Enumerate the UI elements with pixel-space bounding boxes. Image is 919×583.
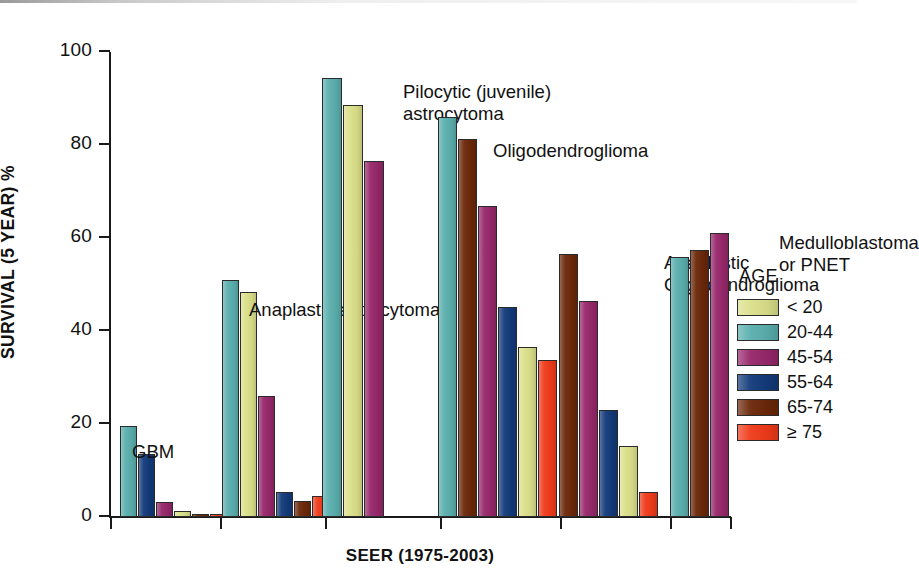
y-axis-tick-label: 20 (70, 411, 92, 433)
bar-group (559, 52, 659, 517)
x-axis-tick (220, 517, 222, 529)
legend-item[interactable]: 65-74 (737, 396, 849, 419)
x-axis-tick (110, 517, 112, 529)
x-axis-tick (325, 517, 327, 529)
y-axis-tick: 100 (99, 50, 110, 52)
bar[interactable] (294, 501, 311, 517)
x-axis-tick (440, 517, 442, 529)
bar-group (670, 52, 730, 517)
legend-rows: < 2020-4445-5455-6465-74≥ 75 (737, 296, 849, 444)
page-edge-rule (0, 0, 857, 3)
y-axis-tick-label: 0 (81, 504, 92, 526)
bar[interactable] (222, 280, 239, 517)
bar[interactable] (276, 492, 293, 517)
plot-area: 020406080100GBMAnaplastic astrocytomaPil… (110, 52, 730, 517)
y-axis-tick: 0 (99, 515, 110, 517)
legend-swatch (737, 374, 779, 391)
legend-item[interactable]: ≥ 75 (737, 421, 849, 444)
legend: AGE < 2020-4445-5455-6465-74≥ 75 (737, 266, 849, 446)
y-axis-tick-label: 80 (70, 132, 92, 154)
bar-group (322, 52, 385, 517)
y-axis-tick-label: 60 (70, 225, 92, 247)
y-axis-tick: 80 (99, 143, 110, 145)
bar[interactable] (619, 446, 638, 517)
bar[interactable] (240, 292, 257, 517)
legend-swatch (737, 399, 779, 416)
bar[interactable] (538, 360, 557, 517)
x-axis-tick (730, 517, 732, 529)
y-axis-tick-label: 100 (60, 39, 92, 61)
bar[interactable] (258, 396, 275, 517)
bar-group (222, 52, 330, 517)
bar[interactable] (438, 117, 457, 517)
bar[interactable] (174, 511, 191, 517)
legend-item[interactable]: 55-64 (737, 371, 849, 394)
legend-label: ≥ 75 (787, 422, 822, 443)
bar[interactable] (458, 139, 477, 517)
legend-item[interactable]: 45-54 (737, 346, 849, 369)
bar[interactable] (559, 254, 578, 517)
legend-title: AGE (739, 266, 849, 287)
group-label: GBM (132, 441, 174, 463)
bar[interactable] (192, 514, 209, 517)
y-axis-tick: 20 (99, 422, 110, 424)
bar[interactable] (120, 426, 137, 517)
legend-item[interactable]: < 20 (737, 296, 849, 319)
bar[interactable] (364, 161, 384, 517)
bar[interactable] (498, 307, 517, 517)
bar[interactable] (156, 502, 173, 517)
y-axis-tick: 40 (99, 329, 110, 331)
y-axis-tick: 60 (99, 236, 110, 238)
legend-label: 45-54 (787, 347, 833, 368)
bar[interactable] (639, 492, 658, 517)
legend-label: 65-74 (787, 397, 833, 418)
bar-group (438, 52, 558, 517)
legend-label: < 20 (787, 297, 823, 318)
legend-item[interactable]: 20-44 (737, 321, 849, 344)
bar[interactable] (343, 105, 363, 517)
legend-label: 55-64 (787, 372, 833, 393)
bar[interactable] (599, 410, 618, 517)
bar[interactable] (322, 78, 342, 517)
x-axis-label: SEER (1975-2003) (110, 546, 730, 566)
legend-swatch (737, 299, 779, 316)
y-axis-label: SURVIVAL (5 YEAR) % (0, 165, 19, 359)
bar[interactable] (690, 250, 709, 517)
bar[interactable] (478, 206, 497, 517)
bar[interactable] (670, 257, 689, 517)
legend-label: 20-44 (787, 322, 833, 343)
legend-swatch (737, 349, 779, 366)
bar[interactable] (518, 347, 537, 517)
legend-swatch (737, 424, 779, 441)
bar[interactable] (710, 233, 729, 517)
y-axis-tick-label: 40 (70, 318, 92, 340)
bar[interactable] (138, 454, 155, 517)
x-axis-tick (560, 517, 562, 529)
x-axis-tick (670, 517, 672, 529)
bar[interactable] (579, 301, 598, 517)
legend-swatch (737, 324, 779, 341)
